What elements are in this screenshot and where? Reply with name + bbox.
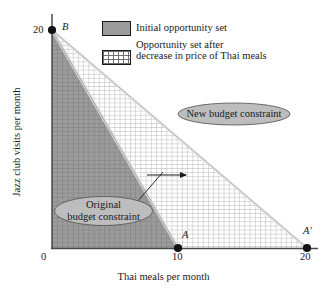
- legend-swatch-initial-opportunity-set: [102, 21, 131, 36]
- x-tick-label-10: 10: [172, 252, 183, 263]
- original-callout-line-1: Original: [86, 199, 121, 210]
- legend-new-line-1: Opportunity set after: [136, 39, 267, 50]
- x-tick-label-0: 0: [41, 252, 46, 263]
- point-B-marker: [48, 26, 56, 34]
- point-label-A-prime: A′: [303, 226, 312, 237]
- original-callout-line-2: budget constraint: [67, 211, 140, 222]
- legend-swatch-new-opportunity-set: [102, 50, 131, 65]
- y-tick-label-20: 20: [33, 25, 44, 36]
- legend-text-initial: Initial opportunity set: [136, 21, 227, 33]
- legend-text-new: Opportunity set after decrease in price …: [136, 38, 267, 61]
- budget-constraint-figure: New budget constraint Original budget co…: [0, 0, 327, 291]
- legend-initial-line-1: Initial opportunity set: [136, 22, 227, 33]
- legend-new-line-2: decrease in price of Thai meals: [136, 50, 267, 61]
- x-tick-label-20: 20: [300, 252, 311, 263]
- legend-item-initial-opportunity-set: Initial opportunity set: [102, 21, 302, 36]
- legend-item-new-opportunity-set: Opportunity set after decrease in price …: [102, 38, 302, 65]
- new-budget-constraint-callout: New budget constraint: [178, 103, 290, 125]
- y-axis-title-text: Jazz club visits per month: [11, 87, 22, 196]
- point-label-A: A: [182, 230, 188, 241]
- new-budget-constraint-callout-text: New budget constraint: [186, 108, 281, 120]
- original-budget-constraint-callout-text: Original budget constraint: [67, 199, 140, 223]
- y-axis-title: Jazz club visits per month: [8, 52, 24, 232]
- point-label-B: B: [62, 22, 68, 33]
- x-axis-title: Thai meals per month: [0, 272, 327, 283]
- original-budget-constraint-callout: Original budget constraint: [54, 196, 153, 226]
- chart-legend: Initial opportunity set Opportunity set …: [102, 21, 302, 67]
